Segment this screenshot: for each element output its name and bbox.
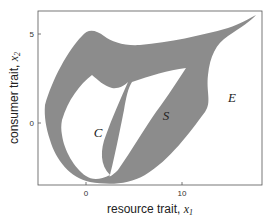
y-tick-label-5: 5 bbox=[30, 30, 35, 39]
y-tick-label-0: 0 bbox=[30, 119, 35, 128]
region-label-c: C bbox=[94, 125, 103, 140]
x-tick-label-10: 10 bbox=[178, 189, 187, 198]
x-tick-label-0: 0 bbox=[84, 189, 89, 198]
y-axis-label: consumer trait, x2 bbox=[7, 52, 22, 144]
region-label-e: E bbox=[227, 90, 236, 105]
chart: 0 10 0 5 C S E resource trait, x1 consum… bbox=[0, 0, 275, 223]
region-label-s: S bbox=[163, 108, 170, 123]
x-axis-label: resource trait, x1 bbox=[107, 202, 193, 217]
